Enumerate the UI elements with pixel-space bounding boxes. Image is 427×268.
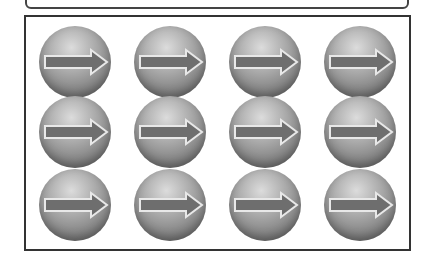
- right-arrow-ball-button[interactable]: [324, 26, 396, 98]
- right-arrow-ball-button[interactable]: [39, 26, 111, 98]
- top-panel: [25, 0, 409, 9]
- right-arrow-icon: [138, 118, 204, 146]
- right-arrow-icon: [43, 191, 109, 219]
- right-arrow-ball-button[interactable]: [229, 96, 301, 168]
- right-arrow-ball-button[interactable]: [134, 96, 206, 168]
- right-arrow-ball-button[interactable]: [229, 26, 301, 98]
- right-arrow-icon: [138, 191, 204, 219]
- right-arrow-ball-button[interactable]: [39, 96, 111, 168]
- right-arrow-icon: [233, 48, 299, 76]
- right-arrow-icon: [328, 118, 394, 146]
- right-arrow-ball-button[interactable]: [229, 169, 301, 241]
- right-arrow-ball-button[interactable]: [134, 26, 206, 98]
- right-arrow-icon: [43, 118, 109, 146]
- right-arrow-icon: [138, 48, 204, 76]
- right-arrow-icon: [328, 191, 394, 219]
- right-arrow-icon: [233, 191, 299, 219]
- right-arrow-icon: [328, 48, 394, 76]
- right-arrow-ball-button[interactable]: [134, 169, 206, 241]
- right-arrow-ball-button[interactable]: [324, 96, 396, 168]
- right-arrow-ball-button[interactable]: [39, 169, 111, 241]
- right-arrow-ball-button[interactable]: [324, 169, 396, 241]
- right-arrow-icon: [233, 118, 299, 146]
- right-arrow-icon: [43, 48, 109, 76]
